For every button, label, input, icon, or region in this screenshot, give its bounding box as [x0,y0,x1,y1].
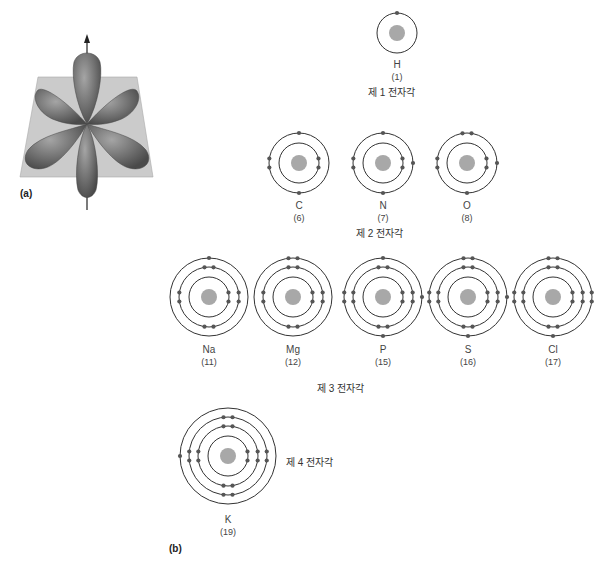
electron [178,454,182,458]
electron [207,256,211,260]
electron [427,299,431,303]
electron [376,265,380,269]
atom-number-h: (1) [357,72,437,82]
atom-o [435,131,499,195]
electron [400,165,404,169]
electron [385,325,389,329]
electron [256,449,260,453]
atom-number-c: (6) [259,213,339,223]
electron [521,290,525,294]
electron [342,290,346,294]
atom-number-k: (19) [188,527,268,537]
electron [435,165,439,169]
electron [202,325,206,329]
electron [570,299,574,303]
electron [461,265,465,269]
atom-symbol-o: O [427,200,507,211]
atom-p [342,256,424,338]
nucleus [459,155,475,171]
atom-cl [512,256,594,338]
electron [385,265,389,269]
electron [512,299,516,303]
electron [310,290,314,294]
electron [495,161,499,165]
shell-1-label: 제 1 전자각 [368,84,415,99]
atom-h [377,11,417,53]
atom-na [170,256,248,336]
electron [411,290,415,294]
electron [460,131,464,135]
electron [211,325,215,329]
nucleus [285,289,301,305]
electron [221,424,225,428]
electron [265,449,269,453]
atom-number-p: (15) [343,357,423,367]
electron [245,458,249,462]
electron [505,295,509,299]
shell-4-label: 제 4 전자각 [286,454,333,469]
nucleus [389,25,405,41]
electron [411,299,415,303]
bohr-models [0,0,612,565]
electron [400,156,404,160]
panel-b-label: (b) [169,543,182,554]
atom-symbol-h: H [357,59,437,70]
electron [485,299,489,303]
electron [177,290,181,294]
electron [226,299,230,303]
electron [400,299,404,303]
electron [237,299,241,303]
electron [555,265,559,269]
electron [470,265,474,269]
atom-symbol-n: N [343,200,423,211]
atom-number-cl: (17) [513,357,593,367]
electron [196,458,200,462]
electron [496,290,500,294]
electron [461,256,465,260]
electron [286,265,290,269]
electron [351,299,355,303]
electron [590,299,594,303]
electron [546,256,550,260]
electron [381,131,385,135]
electron [261,290,265,294]
electron [555,325,559,329]
electron [286,256,290,260]
electron [297,191,301,195]
electron [226,290,230,294]
electron [496,299,500,303]
electron [466,334,470,338]
atom-n [351,131,415,195]
atom-mg [254,256,332,336]
electron [469,131,473,135]
electron [427,290,431,294]
electron [211,265,215,269]
electron [295,265,299,269]
electron [551,334,555,338]
electron [267,165,271,169]
electron [286,325,290,329]
electron [295,256,299,260]
atom-number-na: (11) [169,357,249,367]
atom-symbol-cl: Cl [513,344,593,355]
electron [570,290,574,294]
electron [555,256,559,260]
electron [581,299,585,303]
electron [381,334,385,338]
electron [295,325,299,329]
nucleus [545,289,561,305]
electron [435,156,439,160]
atom-symbol-s: S [428,344,508,355]
electron [484,165,488,169]
electron [256,458,260,462]
electron [351,156,355,160]
atom-number-n: (7) [343,213,423,223]
electron [321,290,325,294]
nucleus [375,155,391,171]
electron [465,191,469,195]
electron [590,290,594,294]
electron [261,299,265,303]
electron [395,11,399,15]
electron [177,299,181,303]
atom-number-mg: (12) [253,357,333,367]
